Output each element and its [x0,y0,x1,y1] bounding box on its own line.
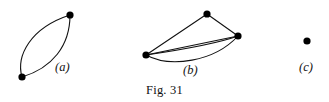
panel-label-b: (b) [183,64,198,77]
vertex-c-single [303,37,310,44]
vertex-b-top [203,10,210,17]
panel-label-a: (a) [55,61,70,74]
edge-b-top-right [207,14,238,36]
panel-label-c: (c) [299,61,313,74]
figure-caption: Fig. 31 [0,84,329,97]
figure-31-container: (a) (b) (c) Fig. 31 [0,0,329,102]
graph-panel-b [142,10,241,61]
vertex-b-left [142,51,149,58]
vertex-b-right [234,32,241,39]
vertex-a-bottom [18,73,25,80]
graph-panel-c [303,37,310,44]
vertex-a-top [66,11,73,18]
